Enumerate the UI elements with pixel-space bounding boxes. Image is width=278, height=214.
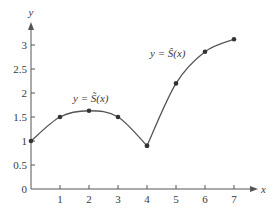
x-tick-label: 6 bbox=[202, 193, 208, 205]
x-tick-label: 5 bbox=[173, 193, 179, 205]
x-tick-label: 1 bbox=[57, 193, 63, 205]
y-tick-label: 0 bbox=[22, 183, 28, 195]
x-tick-label: 4 bbox=[144, 193, 150, 205]
data-point bbox=[58, 115, 63, 120]
y-tick-label: 1.5 bbox=[13, 111, 27, 123]
curve-label-s-tilde: y = S̃(x) bbox=[72, 92, 109, 105]
chart-container: 123456700.511.522.53xy y = S̃(x)y = Ŝ(x) bbox=[0, 0, 278, 214]
y-tick-label: 2 bbox=[22, 87, 28, 99]
x-tick-label: 3 bbox=[115, 193, 121, 205]
data-point bbox=[174, 81, 179, 86]
y-tick-label: 3 bbox=[22, 39, 28, 51]
curve-label-s-hat: y = Ŝ(x) bbox=[149, 47, 186, 60]
data-points bbox=[29, 37, 237, 148]
x-tick-label: 2 bbox=[86, 193, 92, 205]
axes: 123456700.511.522.53xy bbox=[13, 6, 266, 205]
data-point bbox=[87, 108, 92, 113]
y-tick-label: 1 bbox=[22, 135, 28, 147]
curve-s-tilde bbox=[31, 111, 147, 146]
data-point bbox=[232, 37, 237, 42]
x-tick-label: 7 bbox=[231, 193, 237, 205]
curves bbox=[31, 39, 234, 146]
data-point bbox=[29, 139, 34, 144]
data-point bbox=[116, 115, 121, 120]
x-axis-label: x bbox=[260, 183, 266, 195]
data-point bbox=[145, 144, 150, 149]
y-axis-label: y bbox=[28, 6, 34, 18]
spline-chart: 123456700.511.522.53xy y = S̃(x)y = Ŝ(x) bbox=[0, 0, 278, 214]
y-axis-arrow-icon bbox=[28, 22, 34, 30]
y-tick-label: 2.5 bbox=[13, 63, 27, 75]
x-axis-arrow-icon bbox=[250, 186, 258, 192]
y-tick-label: 0.5 bbox=[13, 159, 27, 171]
data-point bbox=[203, 49, 208, 54]
